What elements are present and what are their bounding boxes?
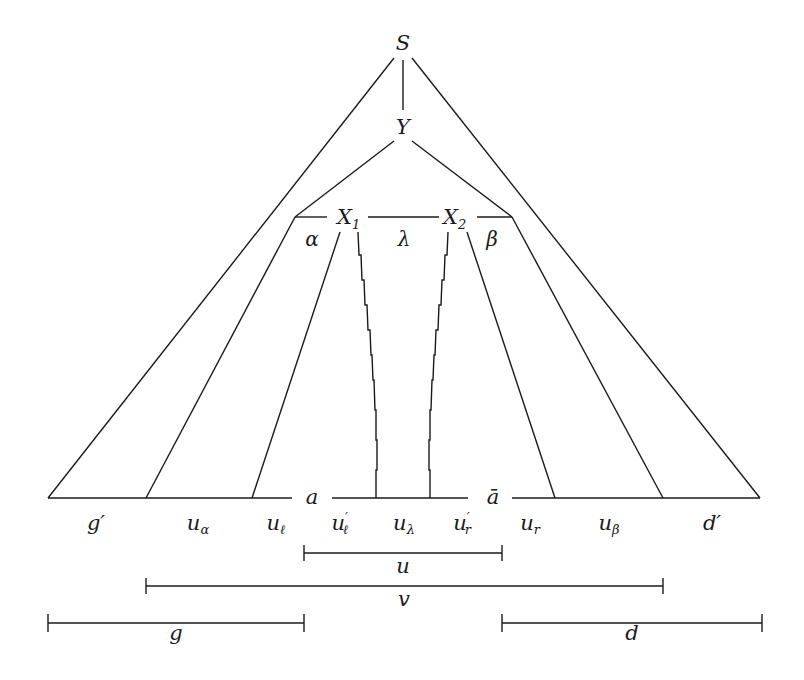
label-u-ell: uℓ: [267, 511, 287, 537]
node-x1: X1: [335, 205, 360, 232]
label-d-prime: d′: [703, 511, 721, 535]
span-v-label: v: [398, 587, 410, 611]
edge-beta-outer: [512, 217, 663, 498]
marker-a-bar: ā: [487, 485, 500, 509]
node-x2: X2: [441, 205, 466, 232]
span-g-label: g: [169, 621, 182, 645]
node-y: Y: [396, 115, 412, 139]
edge-y-right: [412, 141, 512, 217]
span-d-label: d: [625, 621, 638, 645]
label-lambda: λ: [397, 227, 411, 251]
label-u-beta: uβ: [598, 511, 619, 537]
node-s: S: [396, 31, 410, 55]
label-u-lambda: uλ: [393, 511, 415, 537]
label-g-prime: g′: [87, 511, 105, 535]
edge-x1-inner-stepped: [358, 232, 377, 498]
edge-s-right-outer: [412, 58, 760, 498]
derivation-tree-diagram: S Y X1 X2 α λ β a ā g′ uα uℓ u′ℓ uλ u′r …: [0, 0, 804, 680]
label-alpha: α: [305, 227, 319, 251]
label-u-r-prime: u′r: [453, 510, 471, 537]
span-u-label: u: [396, 554, 410, 578]
span-g: g: [48, 614, 304, 645]
label-u-ell-prime: u′ℓ: [332, 510, 349, 537]
span-d: d: [502, 614, 762, 645]
edge-s-left-outer: [48, 58, 394, 498]
edge-x2-inner-stepped: [429, 232, 448, 498]
edge-alpha-outer: [146, 217, 295, 498]
label-u-alpha: uα: [187, 511, 210, 537]
span-v: v: [146, 578, 663, 611]
span-u: u: [304, 545, 502, 578]
label-u-r: ur: [520, 511, 541, 537]
label-beta: β: [485, 227, 498, 251]
marker-a: a: [306, 485, 319, 509]
